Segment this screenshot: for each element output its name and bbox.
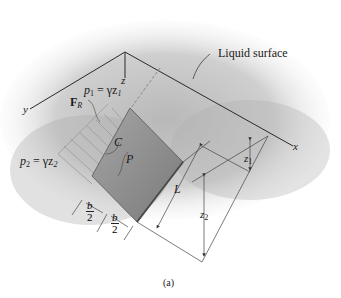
pressure-top-label: p1 = γz1 [84, 84, 121, 98]
z2-label: z2 [200, 209, 208, 222]
z-axis-label: z [121, 75, 125, 86]
p2-equation: = γz [33, 154, 53, 168]
liquid-surface-label: Liquid surface [218, 47, 288, 59]
half-width-label-1: b 2 [86, 200, 94, 223]
half-width-label-2: b 2 [111, 212, 119, 235]
z1-label: z1 [244, 153, 252, 166]
x-axis-label: x [293, 141, 298, 152]
y-axis-label: y [23, 104, 28, 115]
figure-caption: (a) [163, 278, 174, 288]
p1-equation: = γz [97, 83, 117, 97]
diagram-canvas [0, 0, 341, 298]
resultant-force-label: FR [70, 96, 82, 110]
pressure-bottom-label: p2 = γz2 [20, 155, 57, 169]
center-of-pressure-label: P [126, 153, 133, 165]
length-label: L [174, 183, 181, 195]
centroid-label: C [114, 136, 122, 148]
